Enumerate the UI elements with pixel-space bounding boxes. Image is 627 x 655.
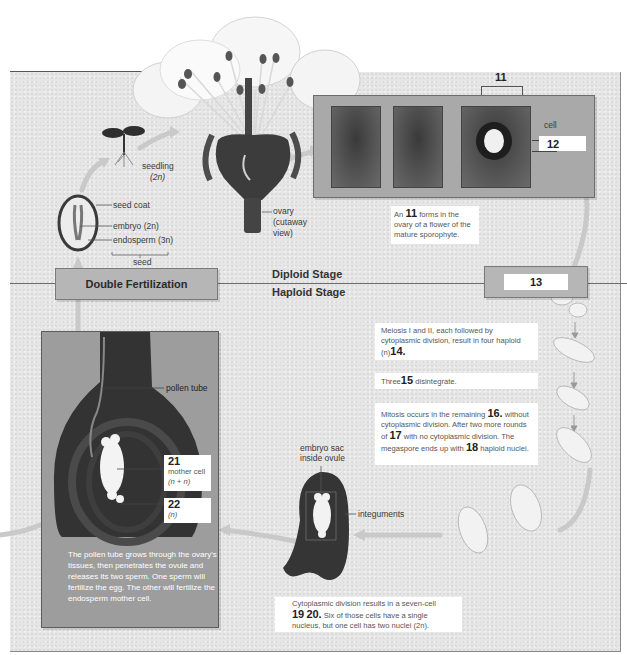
answer-12-leader <box>532 151 557 152</box>
ovule-photo-2 <box>393 106 443 188</box>
answer-box-12: 12 <box>539 136 586 151</box>
answer-box-22: 22 (n) <box>164 498 211 523</box>
answer-12-text: 12 <box>547 138 559 150</box>
ovary-label: ovary <box>273 206 294 217</box>
three-prefix: Three <box>381 377 401 386</box>
arrow-seed-to-seedling <box>82 162 102 190</box>
ovule-photo-3 <box>461 106 531 188</box>
mitosis-num17: 17 <box>389 429 401 441</box>
arrow-seedling-to-flower <box>140 132 172 148</box>
integuments-label: integuments <box>358 509 404 520</box>
cell-arrows <box>571 322 578 431</box>
answer-22-number: 22 <box>168 499 207 510</box>
cytoplasmic-part1: Cytoplasmic division results in a seven-… <box>292 599 436 608</box>
cytoplasmic-num20: 20. <box>306 608 321 620</box>
bracket-11 <box>481 86 523 95</box>
diploid-stage-label: Diploid Stage <box>272 268 342 280</box>
ovule-photo-1 <box>331 106 381 188</box>
mother-cell-label: mother cell <box>168 467 207 477</box>
seedling-label: seedling <box>142 161 174 172</box>
double-fertilization-box: Double Fertilization <box>55 268 218 300</box>
endosperm-label: endosperm (3n) <box>113 235 173 246</box>
caption-prefix: An <box>394 210 403 219</box>
inside-ovule-label: inside ovule <box>300 453 345 464</box>
cytoplasmic-num19: 19 <box>292 608 304 620</box>
answer-box-13: 13 <box>504 274 568 290</box>
pollen-tube-label: pollen tube <box>166 383 208 394</box>
seedling-ploidy: (2n) <box>150 172 165 183</box>
double-fertilization-label: Double Fertilization <box>85 278 187 290</box>
meiosis-number: 14. <box>390 345 405 357</box>
meiosis-box: Meiosis I and II, each followed by cytop… <box>375 323 538 360</box>
answer-13-text: 13 <box>530 276 542 288</box>
cytoplasmic-division-box: Cytoplasmic division results in a seven-… <box>275 597 462 632</box>
ovule-illustration <box>283 466 356 580</box>
stage-13-box: 13 <box>484 266 588 298</box>
mitosis-num18: 18 <box>466 441 478 453</box>
three-suffix: disintegrate. <box>415 377 456 386</box>
arrow-cells-down <box>560 470 590 530</box>
seed-coat-label: seed coat <box>113 200 150 211</box>
mother-cell-ploidy: (n + n) <box>168 477 207 487</box>
mitosis-box: Mitosis occurs in the remaining 16. with… <box>375 403 538 465</box>
mitosis-num16: 16. <box>487 407 502 419</box>
answer-box-21: 21 mother cell (n + n) <box>164 455 211 491</box>
three-disintegrate-box: Three15 disintegrate. <box>375 373 538 389</box>
answer-21-number: 21 <box>168 456 207 467</box>
seed-bracket-label: seed <box>133 257 151 268</box>
mitosis-part1: Mitosis occurs in the remaining <box>381 410 485 419</box>
ovule-caption-box: An 11 forms in the ovary of a flower of … <box>391 206 479 244</box>
haploid-stage-label: Haploid Stage <box>272 286 345 298</box>
cell-label: cell <box>544 120 557 131</box>
mitosis-part4: haploid nuclei. <box>480 444 529 453</box>
ovary-cutaway-label: (cutaway <box>273 217 307 228</box>
caption-number: 11 <box>405 207 417 219</box>
answer-22-ploidy: (n) <box>168 510 207 520</box>
three-number: 15 <box>401 374 413 386</box>
ovary-view-label: view) <box>273 228 293 239</box>
arrow-left-in <box>0 525 40 535</box>
pollen-tube-caption: The pollen tube grows through the ovary'… <box>68 549 218 604</box>
embryo-label: embryo (2n) <box>113 221 159 232</box>
bracket-11-number: 11 <box>495 72 507 83</box>
